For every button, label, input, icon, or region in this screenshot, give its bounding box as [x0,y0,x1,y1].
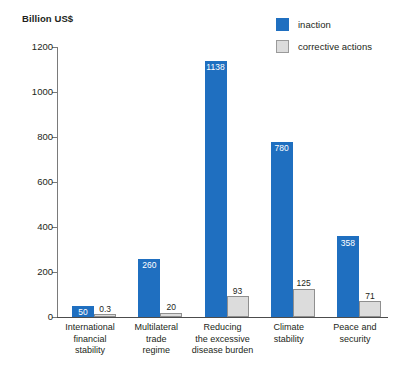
category-label-line: disease burden [189,345,255,357]
x-axis-category-label: Peace andsecurity [322,322,388,345]
bar-corrective-actions [227,296,249,317]
bar-value-label-corrective-actions: 20 [160,303,182,312]
bar-value-label-inaction: 260 [138,261,160,270]
category-label-line: Multilateral [123,322,189,334]
bar-corrective-actions [293,289,315,317]
y-tick-label: 400 [37,221,53,232]
category-label-line: Climate [256,322,322,334]
bar-corrective-actions [94,314,116,317]
bar-inaction [271,142,293,318]
bar-value-label-inaction: 50 [72,308,94,317]
bar-value-label-corrective-actions: 125 [293,279,315,288]
legend-label-inaction: inaction [298,19,331,30]
bar-value-label-inaction: 1138 [205,63,227,72]
bar-value-label-corrective-actions: 71 [359,292,381,301]
legend-item-inaction: inaction [276,17,401,32]
x-axis-category-label: Reducingthe excessivedisease burden [189,322,255,357]
bar-corrective-actions [160,313,182,318]
bar-group: 26020 [138,47,182,317]
y-axis-line [57,47,58,317]
category-label-line: security [322,334,388,346]
x-axis-category-label: Internationalfinancialstability [57,322,123,357]
category-label-line: Reducing [189,322,255,334]
category-label-line: stability [256,334,322,346]
x-axis-line [57,317,388,318]
legend-swatch-icon-inaction [276,18,289,31]
y-axis-title: Billion US$ [22,13,73,24]
bar-inaction [337,236,359,317]
y-tick-label: 0 [48,311,53,322]
category-label-line: financial [57,334,123,346]
bar-group: 500.3 [72,47,116,317]
x-axis-category-labels: InternationalfinancialstabilityMultilate… [57,322,388,370]
category-label-line: Peace and [322,322,388,334]
category-label-line: International [57,322,123,334]
y-tick-label: 600 [37,176,53,187]
bar-corrective-actions [359,301,381,317]
bar-inaction [205,61,227,317]
category-label-line: regime [123,345,189,357]
y-tick-label: 800 [37,131,53,142]
bar-value-label-corrective-actions: 0.3 [94,305,116,314]
y-tick-label: 200 [37,266,53,277]
category-label-line: trade [123,334,189,346]
category-label-line: stability [57,345,123,357]
bar-group: 780125 [271,47,315,317]
bar-value-label-corrective-actions: 93 [227,287,249,296]
bar-group: 35871 [337,47,381,317]
bar-chart: Billion US$ inaction corrective actions … [0,0,401,374]
bar-value-label-inaction: 780 [271,144,293,153]
bar-group: 113893 [205,47,249,317]
y-tick-label: 1000 [32,86,53,97]
plot-area: 020040060080010001200 500.32602011389378… [57,47,388,317]
x-axis-category-label: Climatestability [256,322,322,345]
y-tick-label: 1200 [32,41,53,52]
category-label-line: the excessive [189,334,255,346]
bar-value-label-inaction: 358 [337,239,359,248]
x-axis-category-label: Multilateraltraderegime [123,322,189,357]
